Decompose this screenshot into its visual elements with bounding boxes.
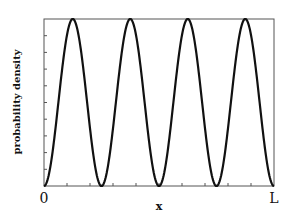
probability-density-plot [0, 0, 288, 219]
plot-frame [44, 19, 274, 186]
density-curve [44, 19, 274, 186]
x-axis-label: x [156, 200, 163, 213]
x-tick-label-start: 0 [40, 190, 49, 206]
x-tick-label-end: L [269, 190, 278, 206]
axis-ticks [44, 36, 251, 186]
y-axis-label: probability density [11, 49, 22, 154]
